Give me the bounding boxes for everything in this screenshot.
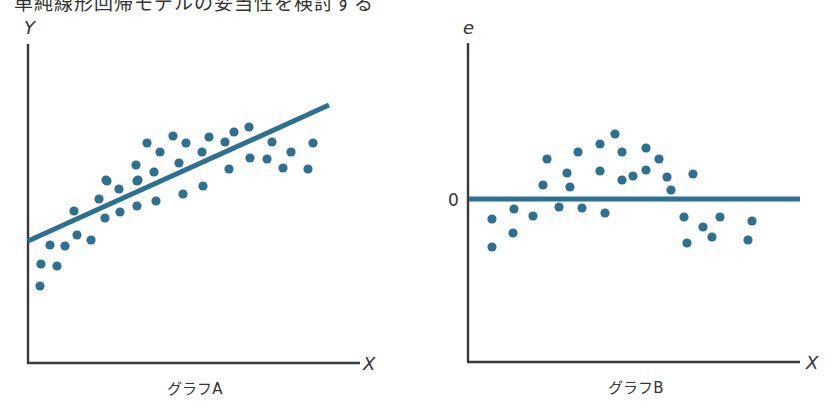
- data-point: [101, 175, 110, 184]
- data-point: [86, 235, 95, 244]
- graph-a-y-label: Y: [24, 17, 37, 38]
- data-point: [565, 182, 574, 191]
- data-point: [100, 213, 109, 222]
- graph-a: Y X グラフA: [24, 17, 376, 398]
- data-point: [554, 202, 563, 211]
- data-point: [131, 160, 140, 169]
- data-point: [595, 139, 604, 148]
- data-point: [220, 137, 229, 146]
- data-point: [715, 212, 724, 221]
- data-point: [707, 232, 716, 241]
- data-point: [286, 147, 295, 156]
- data-point: [654, 154, 663, 163]
- data-point: [595, 166, 604, 175]
- data-point: [641, 143, 650, 152]
- data-point: [168, 131, 177, 140]
- data-point: [617, 175, 626, 184]
- data-point: [688, 169, 697, 178]
- data-point: [244, 122, 253, 131]
- data-point: [487, 214, 496, 223]
- data-point: [528, 211, 537, 220]
- data-point: [197, 147, 206, 156]
- data-point: [151, 196, 160, 205]
- data-point: [35, 281, 44, 290]
- data-point: [600, 208, 609, 217]
- data-point: [72, 230, 81, 239]
- data-point: [52, 261, 61, 270]
- data-point: [45, 240, 54, 249]
- data-point: [308, 138, 317, 147]
- graph-b-y-label: e: [463, 17, 474, 38]
- data-point: [641, 165, 650, 174]
- data-point: [617, 147, 626, 156]
- data-point: [204, 132, 213, 141]
- graph-a-caption: グラフA: [167, 380, 223, 398]
- data-point: [509, 204, 518, 213]
- graph-b-caption: グラフB: [608, 379, 663, 397]
- data-point: [508, 228, 517, 237]
- data-point: [562, 168, 571, 177]
- data-point: [262, 154, 271, 163]
- data-point: [60, 241, 69, 250]
- graph-b-zero-label: 0: [448, 190, 459, 210]
- graph-a-points: [35, 122, 317, 290]
- data-point: [610, 129, 619, 138]
- data-point: [487, 242, 496, 251]
- data-point: [142, 138, 151, 147]
- data-point: [132, 201, 141, 210]
- data-point: [114, 184, 123, 193]
- data-point: [267, 137, 276, 146]
- data-point: [115, 207, 124, 216]
- data-point: [224, 164, 233, 173]
- graph-a-x-label: X: [362, 353, 376, 374]
- data-point: [577, 203, 586, 212]
- data-point: [69, 206, 78, 215]
- data-point: [178, 189, 187, 198]
- data-point: [278, 163, 287, 172]
- data-point: [149, 167, 158, 176]
- data-point: [174, 158, 183, 167]
- data-point: [662, 172, 671, 181]
- data-point: [573, 147, 582, 156]
- data-point: [229, 127, 238, 136]
- data-point: [542, 154, 551, 163]
- data-point: [628, 171, 637, 180]
- graph-b-x-label: X: [805, 352, 819, 373]
- data-point: [198, 181, 207, 190]
- data-point: [36, 259, 45, 268]
- data-point: [743, 235, 752, 244]
- data-point: [538, 180, 547, 189]
- data-point: [666, 185, 675, 194]
- charts-canvas: Y X グラフA e X 0 グラフB: [0, 0, 832, 413]
- graph-a-regression-line: [28, 105, 329, 241]
- graph-b: e X 0 グラフB: [448, 17, 819, 397]
- data-point: [245, 153, 254, 162]
- data-point: [133, 175, 142, 184]
- graph-b-points: [487, 129, 756, 251]
- data-point: [698, 222, 707, 231]
- data-point: [682, 238, 691, 247]
- data-point: [155, 147, 164, 156]
- data-point: [303, 164, 312, 173]
- data-point: [747, 216, 756, 225]
- data-point: [181, 138, 190, 147]
- data-point: [679, 212, 688, 221]
- data-point: [94, 194, 103, 203]
